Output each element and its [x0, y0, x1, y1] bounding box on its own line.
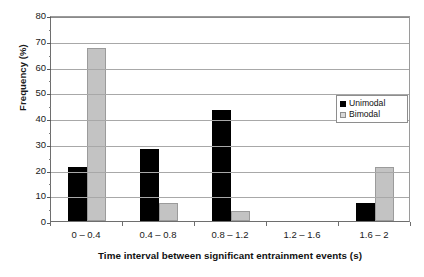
y-axis-minor-tick — [49, 107, 52, 108]
y-axis-tick-label: 80 — [16, 11, 46, 21]
bar-unimodal-4 — [356, 203, 375, 221]
x-axis-tick — [122, 222, 123, 226]
legend-swatch-icon — [340, 101, 346, 107]
x-axis-tick-label: 0.8 – 1.2 — [212, 230, 249, 240]
bar-bimodal-2 — [231, 211, 250, 221]
y-axis-tick — [47, 94, 51, 95]
y-axis-tick — [47, 17, 51, 18]
x-axis-tick-labels: 0 – 0.40.4 – 0.80.8 – 1.21.2 – 1.61.6 – … — [50, 230, 410, 246]
y-axis-minor-tick — [49, 184, 52, 185]
y-axis-tick — [47, 146, 51, 147]
bar-unimodal-0 — [68, 167, 87, 221]
bar-bimodal-1 — [159, 203, 178, 221]
gridline — [51, 17, 409, 18]
y-axis-tick-labels: 01020304050607080 — [16, 0, 46, 277]
gridline — [51, 69, 409, 70]
y-axis-minor-tick — [49, 210, 52, 211]
x-axis-tick — [50, 222, 51, 226]
bar-unimodal-1 — [140, 149, 159, 221]
x-axis-tick-label: 1.2 – 1.6 — [284, 230, 321, 240]
y-axis-minor-tick — [49, 56, 52, 57]
x-axis-tick — [410, 222, 411, 226]
y-axis-minor-tick — [49, 30, 52, 31]
y-axis-tick — [47, 69, 51, 70]
bar-chart: Frequency (%) 01020304050607080 0 – 0.40… — [0, 0, 424, 277]
y-axis-tick-label: 40 — [16, 114, 46, 124]
chart-legend: UnimodalBimodal — [336, 95, 408, 123]
gridline — [51, 146, 409, 147]
y-axis-tick — [47, 43, 51, 44]
y-axis-tick-label: 70 — [16, 37, 46, 47]
x-axis-tick — [194, 222, 195, 226]
bar-bimodal-0 — [87, 48, 106, 221]
x-axis-tick — [266, 222, 267, 226]
gridline — [51, 197, 409, 198]
y-axis-tick-label: 60 — [16, 63, 46, 73]
y-axis-tick — [47, 120, 51, 121]
x-axis-tick — [338, 222, 339, 226]
legend-entry-bimodal: Bimodal — [340, 109, 404, 120]
y-axis-minor-tick — [49, 133, 52, 134]
y-axis-tick — [47, 172, 51, 173]
y-axis-minor-tick — [49, 159, 52, 160]
x-axis-tick-label: 0 – 0.4 — [71, 230, 100, 240]
legend-swatch-icon — [340, 112, 346, 118]
y-axis-minor-tick — [49, 81, 52, 82]
gridline — [51, 43, 409, 44]
bar-unimodal-2 — [212, 110, 231, 221]
y-axis-tick-label: 30 — [16, 140, 46, 150]
y-axis-tick — [47, 197, 51, 198]
x-axis-ticks — [50, 222, 410, 228]
legend-label: Unimodal — [349, 99, 385, 108]
y-axis-tick-label: 50 — [16, 89, 46, 99]
y-axis-tick-label: 10 — [16, 192, 46, 202]
y-axis-tick-label: 20 — [16, 166, 46, 176]
bar-bimodal-4 — [375, 167, 394, 221]
x-axis-tick-label: 1.6 – 2 — [359, 230, 388, 240]
legend-entry-unimodal: Unimodal — [340, 98, 404, 109]
gridline — [51, 172, 409, 173]
legend-label: Bimodal — [349, 110, 380, 119]
x-axis-title: Time interval between significant entrai… — [50, 250, 410, 261]
y-axis-tick-label: 0 — [16, 217, 46, 227]
x-axis-tick-label: 0.4 – 0.8 — [140, 230, 177, 240]
